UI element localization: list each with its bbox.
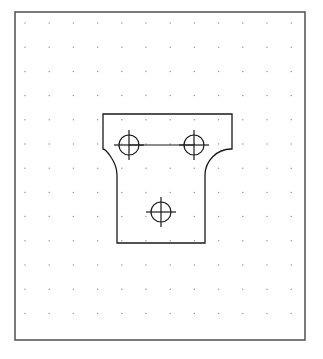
- grid-dot: [194, 240, 196, 242]
- grid-dot: [290, 192, 292, 194]
- grid-dot: [169, 22, 171, 24]
- grid-dot: [73, 288, 75, 290]
- grid-dot: [218, 313, 220, 315]
- grid-dot: [73, 143, 75, 145]
- grid-dot: [24, 264, 26, 266]
- grid-dot: [169, 71, 171, 73]
- grid-dot: [290, 119, 292, 121]
- grid-dot: [218, 119, 220, 121]
- grid-dot: [145, 240, 147, 242]
- grid-dot: [194, 22, 196, 24]
- grid-dot: [97, 119, 99, 121]
- grid-dot: [48, 71, 50, 73]
- grid-dot: [242, 240, 244, 242]
- grid-dot: [24, 216, 26, 218]
- grid-dot: [290, 143, 292, 145]
- grid-dot: [73, 240, 75, 242]
- grid-dot: [73, 22, 75, 24]
- grid-dot: [169, 240, 171, 242]
- grid-dot: [218, 216, 220, 218]
- grid-dot: [24, 22, 26, 24]
- grid-dot: [266, 143, 268, 145]
- grid-dot: [48, 288, 50, 290]
- grid-dot: [73, 167, 75, 169]
- grid-dot: [242, 71, 244, 73]
- grid-dot: [73, 313, 75, 315]
- grid-dot: [194, 46, 196, 48]
- grid-dot: [97, 192, 99, 194]
- grid-dot: [290, 288, 292, 290]
- grid-dot: [242, 313, 244, 315]
- grid-dot: [169, 167, 171, 169]
- grid-dot: [218, 240, 220, 242]
- grid-dot: [218, 264, 220, 266]
- grid-dot: [48, 119, 50, 121]
- drawing-surface: [0, 0, 323, 359]
- grid-dot: [218, 95, 220, 97]
- grid-dot: [24, 46, 26, 48]
- grid-dot: [48, 313, 50, 315]
- grid-dot: [169, 288, 171, 290]
- grid-dot: [73, 192, 75, 194]
- grid-dot: [290, 46, 292, 48]
- grid-dot: [266, 240, 268, 242]
- grid-dot: [121, 46, 123, 48]
- grid-dot: [194, 264, 196, 266]
- grid-dot: [145, 71, 147, 73]
- grid-dot: [97, 143, 99, 145]
- grid-dot: [97, 216, 99, 218]
- grid-dot: [121, 71, 123, 73]
- grid-dot: [48, 22, 50, 24]
- grid-dot: [290, 71, 292, 73]
- grid-dot: [73, 216, 75, 218]
- grid-dot: [169, 119, 171, 121]
- grid-dot: [24, 71, 26, 73]
- grid-dot: [290, 240, 292, 242]
- grid-dot: [290, 95, 292, 97]
- grid-dot: [169, 95, 171, 97]
- grid-dot: [145, 288, 147, 290]
- grid-dot: [169, 264, 171, 266]
- grid-dot: [194, 95, 196, 97]
- grid-dot: [48, 240, 50, 242]
- grid-dot: [218, 22, 220, 24]
- paper-background: [0, 0, 323, 359]
- grid-dot: [266, 71, 268, 73]
- grid-dot: [97, 167, 99, 169]
- grid-dot: [97, 313, 99, 315]
- grid-dot: [242, 143, 244, 145]
- grid-dot: [242, 167, 244, 169]
- grid-dot: [48, 95, 50, 97]
- grid-dot: [24, 143, 26, 145]
- grid-dot: [242, 264, 244, 266]
- grid-dot: [121, 192, 123, 194]
- grid-dot: [121, 95, 123, 97]
- grid-dot: [145, 192, 147, 194]
- grid-dot: [73, 71, 75, 73]
- grid-dot: [121, 288, 123, 290]
- grid-dot: [290, 22, 292, 24]
- grid-dot: [266, 264, 268, 266]
- grid-dot: [121, 22, 123, 24]
- technical-drawing-canvas: [0, 0, 323, 359]
- grid-dot: [266, 22, 268, 24]
- grid-dot: [73, 119, 75, 121]
- grid-dot: [266, 119, 268, 121]
- grid-dot: [73, 46, 75, 48]
- grid-dot: [194, 288, 196, 290]
- grid-dot: [145, 119, 147, 121]
- grid-dot: [97, 46, 99, 48]
- grid-dot: [218, 167, 220, 169]
- grid-dot: [73, 95, 75, 97]
- grid-dot: [121, 167, 123, 169]
- grid-dot: [121, 119, 123, 121]
- grid-dot: [121, 264, 123, 266]
- grid-dot: [48, 143, 50, 145]
- grid-dot: [24, 288, 26, 290]
- grid-dot: [242, 119, 244, 121]
- grid-dot: [48, 216, 50, 218]
- grid-dot: [266, 192, 268, 194]
- grid-dot: [242, 288, 244, 290]
- grid-dot: [97, 240, 99, 242]
- grid-dot: [145, 216, 147, 218]
